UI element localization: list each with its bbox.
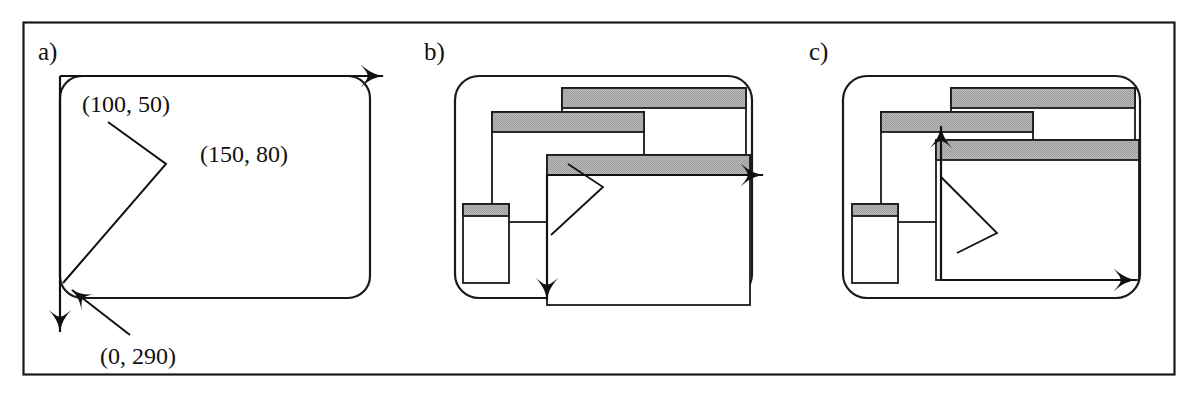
panel-b-window-front[interactable] — [547, 155, 750, 305]
panel-a: a) (100, 50) (150, 80) (0, 290) — [38, 38, 383, 369]
panel-c-label: c) — [809, 38, 828, 66]
panel-a-pen-stroke-path — [63, 122, 166, 283]
window-titlebar — [547, 155, 750, 175]
figure-svg: a) (100, 50) (150, 80) (0, 290) b) — [0, 0, 1198, 398]
panel-a-mid-point-label: (150, 80) — [200, 141, 288, 167]
panel-c: c) — [809, 38, 1140, 298]
panel-b: b) — [424, 38, 763, 305]
window-titlebar — [463, 204, 509, 216]
panel-a-end-point-label: (0, 290) — [100, 343, 176, 369]
window-titlebar — [881, 112, 1033, 132]
window-titlebar — [492, 112, 644, 132]
window-titlebar — [562, 88, 746, 108]
figure-container: a) (100, 50) (150, 80) (0, 290) b) — [0, 0, 1198, 398]
panel-c-window-front[interactable] — [936, 140, 1139, 280]
window-titlebar — [936, 140, 1139, 160]
window-titlebar — [852, 204, 898, 216]
panel-a-end-point-leader-arrow — [72, 290, 130, 335]
window-body — [547, 155, 750, 305]
panel-a-start-point-label: (100, 50) — [82, 91, 170, 117]
panel-b-label: b) — [424, 38, 445, 66]
window-titlebar — [951, 88, 1135, 108]
panel-a-label: a) — [38, 38, 57, 66]
window-body — [936, 140, 1139, 280]
panel-b-window-small[interactable] — [463, 204, 509, 283]
panel-c-window-small[interactable] — [852, 204, 898, 283]
